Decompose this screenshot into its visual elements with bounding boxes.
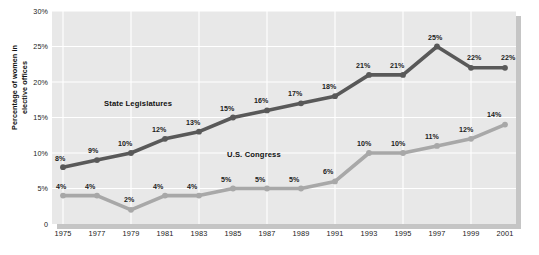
data-point bbox=[60, 193, 66, 199]
y-tick-label: 0 bbox=[6, 220, 48, 229]
line-chart: Percentage of women in elective offices … bbox=[0, 0, 539, 255]
data-point bbox=[162, 193, 168, 199]
data-point bbox=[400, 72, 406, 78]
data-point bbox=[162, 136, 168, 142]
point-value-label: 5% bbox=[221, 176, 231, 184]
point-value-label: 17% bbox=[288, 90, 302, 98]
point-value-label: 25% bbox=[428, 34, 442, 42]
point-value-label: 2% bbox=[124, 196, 134, 204]
point-value-label: 15% bbox=[220, 105, 234, 113]
plot-area bbox=[52, 11, 516, 224]
point-value-label: 5% bbox=[289, 176, 299, 184]
data-point bbox=[468, 65, 474, 71]
data-point bbox=[128, 207, 134, 213]
point-value-label: 16% bbox=[254, 97, 268, 105]
data-point bbox=[332, 93, 338, 99]
data-point bbox=[298, 186, 304, 192]
series-label-2: U.S. Congress bbox=[227, 150, 281, 159]
point-value-label: 5% bbox=[255, 176, 265, 184]
series-label-1: State Legislatures bbox=[104, 99, 172, 108]
point-value-label: 11% bbox=[425, 133, 439, 141]
data-point bbox=[60, 164, 66, 170]
y-tick-label: 30% bbox=[6, 7, 48, 16]
point-value-label: 4% bbox=[187, 183, 197, 191]
x-tick-label: 2001 bbox=[485, 229, 525, 238]
data-point bbox=[366, 150, 372, 156]
point-value-label: 12% bbox=[459, 126, 473, 134]
point-value-label: 4% bbox=[153, 183, 163, 191]
point-value-label: 21% bbox=[390, 62, 404, 70]
y-tick-label: 15% bbox=[6, 113, 48, 122]
data-point bbox=[502, 122, 508, 128]
data-point bbox=[196, 129, 202, 135]
point-value-label: 4% bbox=[85, 183, 95, 191]
y-tick-label: 20% bbox=[6, 78, 48, 87]
data-point bbox=[502, 65, 508, 71]
point-value-label: 12% bbox=[152, 126, 166, 134]
data-point bbox=[366, 72, 372, 78]
point-value-label: 14% bbox=[487, 111, 501, 119]
y-tick-label: 25% bbox=[6, 42, 48, 51]
data-point bbox=[94, 193, 100, 199]
data-point bbox=[128, 150, 134, 156]
point-value-label: 10% bbox=[118, 140, 132, 148]
data-point bbox=[434, 44, 440, 50]
data-point bbox=[468, 136, 474, 142]
point-value-label: 22% bbox=[501, 54, 515, 62]
point-value-label: 13% bbox=[186, 119, 200, 127]
data-point bbox=[298, 100, 304, 106]
y-tick-label: 5% bbox=[6, 184, 48, 193]
data-point bbox=[400, 150, 406, 156]
data-point bbox=[264, 186, 270, 192]
point-value-label: 8% bbox=[55, 155, 65, 163]
point-value-label: 21% bbox=[356, 62, 370, 70]
data-point bbox=[434, 143, 440, 149]
point-value-label: 10% bbox=[391, 140, 405, 148]
data-point bbox=[332, 179, 338, 185]
series-lines bbox=[63, 47, 505, 210]
data-point bbox=[230, 186, 236, 192]
y-tick-label: 10% bbox=[6, 149, 48, 158]
point-value-label: 22% bbox=[467, 54, 481, 62]
data-point bbox=[196, 193, 202, 199]
data-point bbox=[94, 157, 100, 163]
y-axis-title: Percentage of women in elective offices bbox=[10, 13, 29, 163]
data-point bbox=[264, 108, 270, 114]
data-point bbox=[230, 115, 236, 121]
point-value-label: 9% bbox=[88, 147, 98, 155]
point-value-label: 18% bbox=[322, 83, 336, 91]
plot-canvas bbox=[52, 11, 516, 224]
point-value-label: 4% bbox=[56, 183, 66, 191]
point-value-label: 6% bbox=[323, 168, 333, 176]
point-value-label: 10% bbox=[357, 140, 371, 148]
